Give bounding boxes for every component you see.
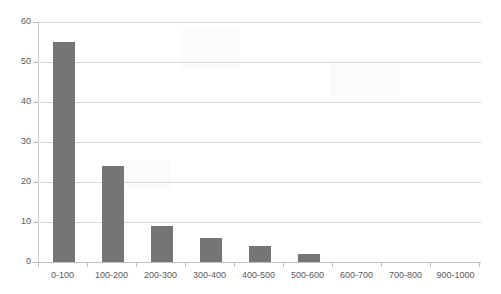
x-axis-tick bbox=[283, 262, 284, 267]
y-tick-label: 40 bbox=[3, 97, 31, 106]
x-tick-label: 200-300 bbox=[136, 270, 185, 280]
x-axis-tick bbox=[38, 262, 39, 267]
x-axis-tick bbox=[430, 262, 431, 267]
x-axis-tick bbox=[136, 262, 137, 267]
y-tick-label: 10 bbox=[3, 217, 31, 226]
y-axis-labels: 60 50 40 30 20 10 0 bbox=[0, 0, 31, 294]
gridline-40 bbox=[38, 102, 481, 103]
x-tick-label: 0-100 bbox=[38, 270, 87, 280]
x-axis-tick bbox=[381, 262, 382, 267]
gridline-60 bbox=[38, 22, 481, 23]
x-tick-label: 900-1000 bbox=[430, 270, 481, 280]
bar bbox=[200, 238, 222, 262]
x-tick-label: 700-800 bbox=[381, 270, 430, 280]
bar bbox=[298, 254, 320, 262]
x-tick-label: 400-500 bbox=[234, 270, 283, 280]
bar-chart: 60 50 40 30 20 10 0 bbox=[0, 0, 501, 294]
gridline-0 bbox=[38, 262, 481, 263]
y-tick-label: 50 bbox=[3, 57, 31, 66]
bar bbox=[249, 246, 271, 262]
x-axis-tick bbox=[234, 262, 235, 267]
x-tick-label: 100-200 bbox=[87, 270, 136, 280]
gridline-50 bbox=[38, 62, 481, 63]
x-axis-tick bbox=[479, 262, 480, 267]
y-tick-label: 0 bbox=[3, 257, 31, 266]
y-tick-label: 60 bbox=[3, 17, 31, 26]
x-tick-label: 500-600 bbox=[283, 270, 332, 280]
x-axis-tick bbox=[185, 262, 186, 267]
bar bbox=[102, 166, 124, 262]
x-tick-label: 300-400 bbox=[185, 270, 234, 280]
x-tick-label: 600-700 bbox=[332, 270, 381, 280]
y-tick-label: 20 bbox=[3, 177, 31, 186]
plot-area bbox=[38, 22, 481, 262]
gridline-30 bbox=[38, 142, 481, 143]
x-axis-tick bbox=[87, 262, 88, 267]
bar bbox=[53, 42, 75, 262]
x-axis-tick bbox=[332, 262, 333, 267]
bar bbox=[151, 226, 173, 262]
y-tick-label: 30 bbox=[3, 137, 31, 146]
